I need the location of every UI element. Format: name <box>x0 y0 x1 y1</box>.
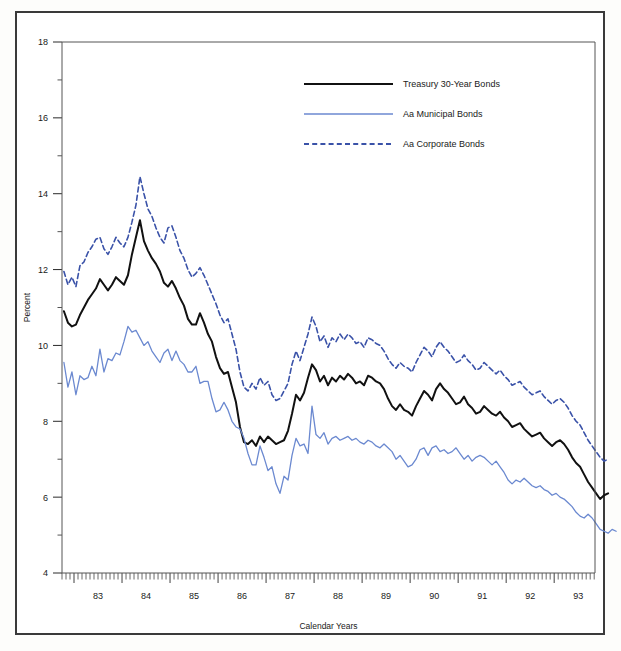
x-tick-label: 89 <box>381 591 391 601</box>
x-tick-label: 87 <box>285 591 295 601</box>
x-axis-title: Calendar Years <box>299 621 357 631</box>
y-tick-label: 14 <box>38 189 48 199</box>
x-tick-label: 85 <box>189 591 199 601</box>
x-tick-label: 84 <box>141 591 151 601</box>
x-tick-label: 91 <box>477 591 487 601</box>
y-tick-label: 10 <box>38 341 48 351</box>
figure-container: 4681012141618 8384858687888990919293 Tre… <box>0 0 621 651</box>
y-tick-label: 16 <box>38 113 48 123</box>
x-tick-label: 90 <box>429 591 439 601</box>
plot-background <box>62 42 595 573</box>
legend-label-1: Treasury 30-Year Bonds <box>403 79 500 89</box>
x-axis: 8384858687888990919293 <box>62 573 594 601</box>
y-tick-label: 18 <box>38 37 48 47</box>
y-axis: 4681012141618 <box>38 37 62 578</box>
y-tick-label: 6 <box>43 493 48 503</box>
x-tick-label: 86 <box>237 591 247 601</box>
x-tick-label: 93 <box>573 591 583 601</box>
legend-label-2: Aa Municipal Bonds <box>403 109 483 119</box>
x-tick-label: 88 <box>333 591 343 601</box>
legend-label-3: Aa Corporate Bonds <box>403 139 485 149</box>
y-tick-label: 12 <box>38 265 48 275</box>
y-axis-title: Percent <box>22 292 32 322</box>
x-tick-label: 92 <box>525 591 535 601</box>
plot-area: 4681012141618 8384858687888990919293 Tre… <box>22 37 616 631</box>
x-tick-label: 83 <box>93 591 103 601</box>
bond-yield-line-chart: 4681012141618 8384858687888990919293 Tre… <box>0 0 621 651</box>
y-tick-label: 8 <box>43 417 48 427</box>
y-tick-label: 4 <box>43 568 48 578</box>
